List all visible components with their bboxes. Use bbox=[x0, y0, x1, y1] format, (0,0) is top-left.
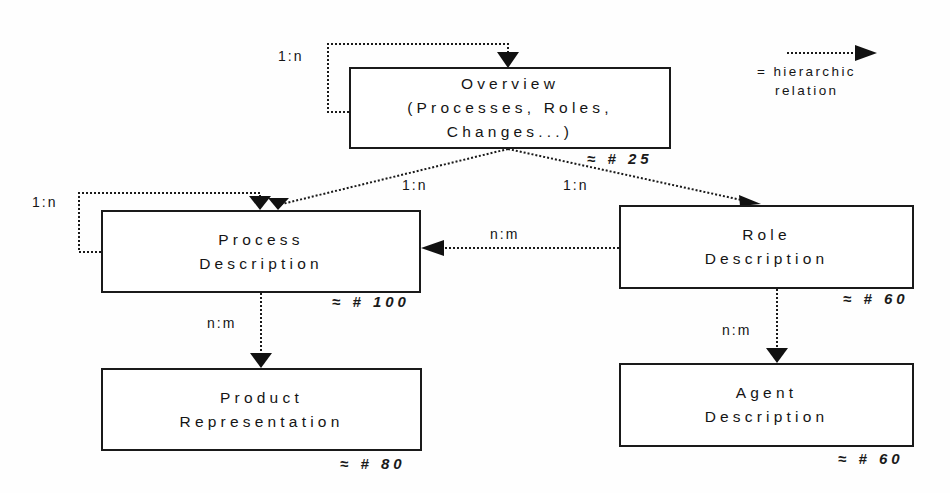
role-count: ≈ # 60 bbox=[843, 290, 909, 307]
role-to-process-label: n:m bbox=[490, 226, 519, 242]
legend-arrowhead-icon bbox=[855, 45, 877, 61]
overview-to-role-label: 1:n bbox=[563, 177, 588, 193]
process-count: ≈ # 100 bbox=[332, 293, 410, 310]
overview-self-arrowhead-icon bbox=[497, 52, 519, 68]
product-arrowhead-icon bbox=[250, 353, 272, 368]
role-description-node[interactable]: Role Description bbox=[619, 205, 914, 289]
agent-arrowhead-icon bbox=[766, 348, 788, 363]
agent-count: ≈ # 60 bbox=[838, 450, 904, 467]
process-self-arrowhead-icon bbox=[249, 196, 271, 210]
product-title: Product bbox=[220, 386, 303, 410]
agent-title: Agent bbox=[736, 381, 798, 405]
role-title: Role bbox=[742, 223, 791, 247]
process-from-role-arrowhead-icon bbox=[421, 240, 444, 256]
legend-text: = hierarchic relation bbox=[757, 62, 856, 100]
process-self-relation-label: 1:n bbox=[32, 194, 57, 210]
role-to-agent-label: n:m bbox=[722, 322, 751, 338]
legend-line1: = hierarchic bbox=[757, 62, 856, 81]
product-count: ≈ # 80 bbox=[340, 455, 406, 472]
product-subtitle: Representation bbox=[180, 410, 344, 434]
process-subtitle: Description bbox=[199, 252, 323, 276]
diagram-canvas: = hierarchic relation Overview (Processe… bbox=[0, 0, 950, 493]
product-representation-node[interactable]: Product Representation bbox=[101, 368, 422, 451]
overview-count: ≈ # 25 bbox=[587, 150, 653, 167]
process-title: Process bbox=[218, 228, 303, 252]
role-subtitle: Description bbox=[705, 247, 829, 271]
overview-line2: (Processes, Roles, bbox=[407, 96, 613, 120]
process-description-node[interactable]: Process Description bbox=[101, 210, 421, 293]
agent-description-node[interactable]: Agent Description bbox=[619, 363, 914, 447]
overview-line3: Changes...) bbox=[447, 120, 573, 144]
process-to-product-label: n:m bbox=[207, 315, 236, 331]
overview-title: Overview bbox=[461, 72, 559, 96]
agent-subtitle: Description bbox=[705, 405, 829, 429]
legend-line2: relation bbox=[757, 81, 856, 100]
overview-to-process-edge bbox=[282, 149, 508, 204]
overview-node[interactable]: Overview (Processes, Roles, Changes...) bbox=[349, 67, 671, 149]
overview-self-relation-label: 1:n bbox=[278, 48, 303, 64]
overview-to-process-label: 1:n bbox=[402, 177, 427, 193]
